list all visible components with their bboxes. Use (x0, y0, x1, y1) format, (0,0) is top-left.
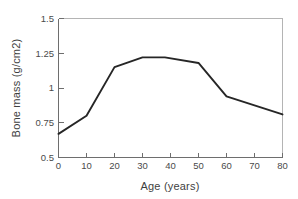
plot-frame (59, 19, 283, 158)
y-tick-label: 1.5 (41, 13, 54, 24)
y-tick-label: 1 (49, 82, 54, 93)
x-tick-label: 50 (193, 160, 204, 171)
x-tick-label: 40 (165, 160, 176, 171)
x-tick-labels: 0 10 20 30 40 50 60 70 80 (56, 160, 288, 171)
chart-plot-area: 0.5 0.75 1 1.25 1.5 0 10 20 30 40 50 60 … (0, 0, 298, 199)
x-tick-marks (59, 153, 283, 158)
x-tick-label: 0 (56, 160, 61, 171)
bone-mass-line-series (59, 57, 283, 133)
x-tick-label: 10 (81, 160, 92, 171)
y-tick-label: 1.25 (36, 48, 55, 59)
y-tick-labels: 0.5 0.75 1 1.25 1.5 (36, 13, 55, 163)
y-axis-label: Bone mass (g/cm2) (10, 39, 22, 138)
bone-mass-chart-figure: 0.5 0.75 1 1.25 1.5 0 10 20 30 40 50 60 … (0, 0, 298, 199)
x-axis-label: Age (years) (140, 180, 199, 192)
y-tick-label: 0.75 (36, 117, 55, 128)
x-tick-label: 20 (109, 160, 120, 171)
x-tick-label: 60 (221, 160, 232, 171)
x-tick-label: 30 (137, 160, 148, 171)
x-tick-label: 80 (277, 160, 288, 171)
y-tick-marks (59, 19, 64, 158)
y-tick-label: 0.5 (41, 152, 54, 163)
x-tick-label: 70 (249, 160, 260, 171)
plot-axes (59, 19, 283, 158)
